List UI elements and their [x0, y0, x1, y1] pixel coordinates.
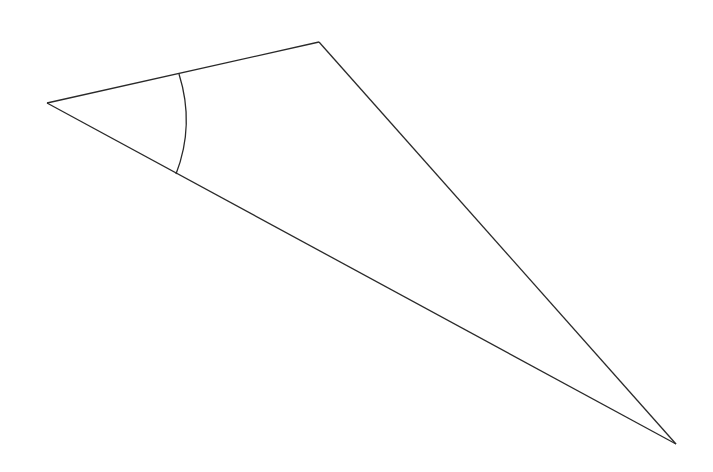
side-bottom [47, 103, 676, 444]
side-top [47, 42, 319, 103]
triangle-diagram [0, 0, 713, 472]
angle-arc [176, 74, 186, 174]
side-right [319, 42, 676, 444]
